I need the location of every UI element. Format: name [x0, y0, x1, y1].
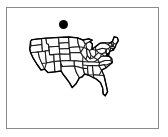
state-nebraska — [59, 48, 70, 54]
us-states-map — [0, 0, 168, 137]
black-dot-marker — [59, 20, 68, 29]
state-new-mexico — [54, 61, 61, 72]
figure-canvas — [0, 0, 168, 137]
state-boundaries-group — [30, 37, 119, 96]
state-iowa — [69, 47, 80, 53]
state-kansas — [60, 54, 71, 61]
state-wyoming — [49, 46, 60, 55]
